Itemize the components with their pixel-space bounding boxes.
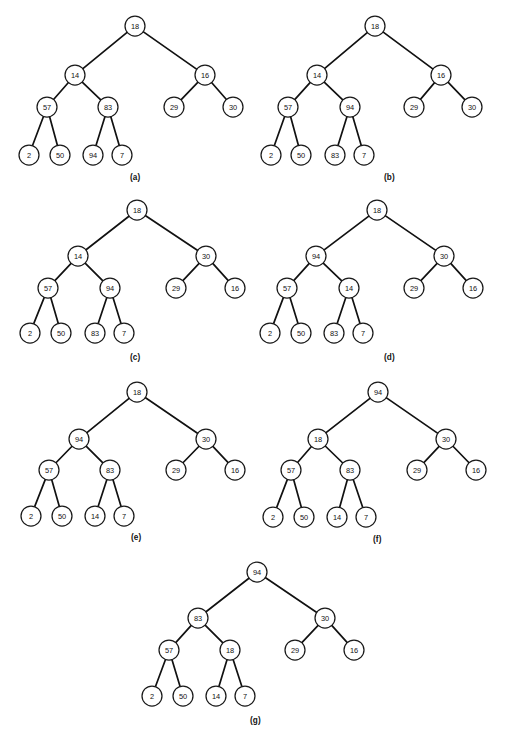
- tree-edge: [155, 658, 166, 687]
- node-value-label: 18: [226, 646, 234, 655]
- tree-panel-g: 94833057182916250147: [0, 0, 508, 746]
- tree-node: 50: [173, 686, 193, 706]
- node-value-label: 14: [212, 692, 220, 701]
- node-value-label: 29: [291, 646, 299, 655]
- tree-edges: [155, 577, 348, 688]
- node-value-label: 16: [350, 646, 358, 655]
- panel-caption: (g): [250, 716, 261, 725]
- tree-edge: [175, 625, 192, 644]
- node-value-label: 7: [243, 692, 247, 701]
- tree-edge: [301, 625, 319, 644]
- tree-edge: [264, 577, 317, 613]
- tree-node: 57: [159, 640, 179, 660]
- tree-edge: [172, 659, 181, 688]
- heap-figure: 18141657832930250947(a)18141657942930250…: [0, 0, 508, 746]
- node-value-label: 2: [150, 692, 154, 701]
- tree-node: 7: [235, 686, 255, 706]
- node-value-label: 30: [321, 614, 329, 623]
- tree-nodes: 94833057182916250147: [142, 562, 364, 706]
- node-value-label: 50: [179, 692, 187, 701]
- tree-node: 2: [142, 686, 162, 706]
- node-value-label: 94: [253, 568, 261, 577]
- tree-edge: [205, 578, 250, 613]
- tree-node: 29: [285, 640, 305, 660]
- tree-edge: [233, 659, 242, 688]
- tree-node: 83: [188, 608, 208, 628]
- node-value-label: 57: [165, 646, 173, 655]
- tree-node: 18: [220, 640, 240, 660]
- tree-edge: [219, 659, 228, 688]
- tree-edge: [204, 624, 223, 643]
- node-value-label: 83: [194, 614, 202, 623]
- tree-node: 30: [315, 608, 335, 628]
- tree-node: 16: [344, 640, 364, 660]
- tree-edge: [331, 625, 348, 644]
- tree-node: 94: [247, 562, 267, 582]
- tree-node: 14: [206, 686, 226, 706]
